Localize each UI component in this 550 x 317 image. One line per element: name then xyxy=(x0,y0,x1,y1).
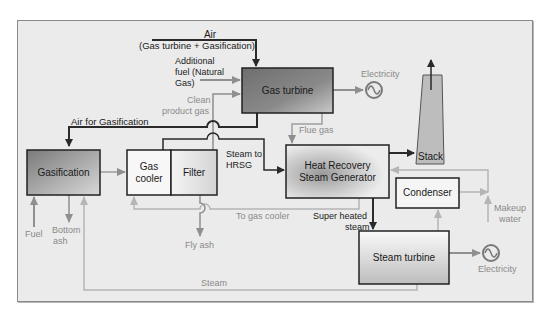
air-sub-label: (Gas turbine + Gasification) xyxy=(139,41,255,52)
steam-to-hrsg-label-1: Steam to xyxy=(226,149,262,159)
gas-cooler-label: Gas cooler xyxy=(127,150,171,195)
gas-turbine-label: Gas turbine xyxy=(242,68,333,113)
makeup-water-label-2: water xyxy=(490,214,530,224)
steam-turbine-label: Steam turbine xyxy=(359,231,449,284)
bottom-ash-label-1: Bottom xyxy=(52,225,81,235)
fuel-label: Fuel xyxy=(25,229,43,239)
electricity-label-top: Electricity xyxy=(361,69,400,79)
fly-ash-label: Fly ash xyxy=(185,240,214,250)
hrsg-label: Heat Recovery Steam Generator xyxy=(286,145,389,198)
air-label: Air xyxy=(180,29,240,41)
electricity-label-bottom: Electricity xyxy=(478,264,517,274)
super-heated-label-2: steam xyxy=(345,222,370,232)
filter-label: Filter xyxy=(171,150,217,195)
bottom-ash-label-2: ash xyxy=(53,236,68,246)
igcc-process-diagram: Gas turbine Gasification Gas cooler Filt… xyxy=(0,0,550,317)
clean-gas-label-2: product gas xyxy=(162,106,209,116)
super-heated-label-1: Super heated xyxy=(313,211,367,221)
makeup-water-label-1: Makeup xyxy=(490,203,530,213)
electricity-generator-icon xyxy=(483,245,499,261)
to-gas-cooler-label: To gas cooler xyxy=(236,211,290,221)
additional-fuel-label-3: Gas) xyxy=(175,78,195,88)
flue-gas-label: Flue gas xyxy=(299,125,334,135)
gasification-label: Gasification xyxy=(27,150,100,195)
steam-to-hrsg-label-2: HRSG xyxy=(226,160,252,170)
stack-label: Stack xyxy=(418,151,443,163)
steam-label: Steam xyxy=(201,278,227,288)
electricity-generator-icon xyxy=(366,82,382,98)
condenser-label: Condenser xyxy=(396,178,459,208)
additional-fuel-label-1: Additional xyxy=(175,56,215,66)
air-for-gasification-label: Air for Gasification xyxy=(71,117,149,128)
additional-fuel-label-2: fuel (Natural xyxy=(175,67,224,77)
clean-gas-label-1: Clean xyxy=(187,95,211,105)
